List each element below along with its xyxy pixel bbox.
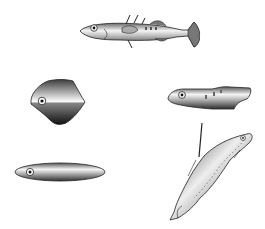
fish-illustration (0, 0, 265, 229)
fish-blocky (168, 87, 251, 109)
fishing-line (199, 123, 202, 157)
fish-diamond (31, 80, 85, 125)
fish-hanging (170, 123, 252, 220)
fish-stickleback (80, 15, 200, 48)
fish-ellipse (15, 163, 105, 181)
